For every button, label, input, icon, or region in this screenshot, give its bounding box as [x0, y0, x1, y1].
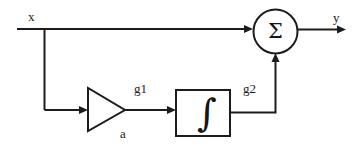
output-signal-label-y: y [333, 11, 340, 24]
gain-output-label-g1: g1 [134, 82, 147, 95]
gain-value-label-a: a [120, 127, 126, 140]
arrowhead-into-integrator [167, 106, 176, 114]
integrator-output-label-g2: g2 [243, 82, 256, 95]
block-diagram-canvas: Σ ∫ x y g1 g2 a [0, 0, 358, 147]
arrowhead-into-gain [79, 106, 88, 114]
gain-triangle-block[interactable] [88, 88, 125, 131]
arrowhead-output [337, 26, 346, 34]
diagram-svg [0, 0, 358, 147]
integrator-integral-symbol: ∫ [197, 94, 217, 132]
arrowhead-into-summer-left [244, 25, 253, 33]
input-signal-label-x: x [28, 10, 35, 23]
summer-sigma-symbol: Σ [268, 21, 283, 42]
